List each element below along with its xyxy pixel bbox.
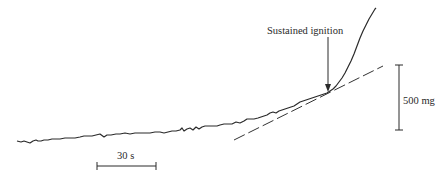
tangent-line (234, 66, 383, 140)
time-scale-label: 30 s (117, 150, 134, 161)
ignition-label: Sustained ignition (267, 25, 343, 36)
mass-scale-label: 500 mg (403, 95, 435, 106)
mass-loss-plot (0, 0, 442, 179)
